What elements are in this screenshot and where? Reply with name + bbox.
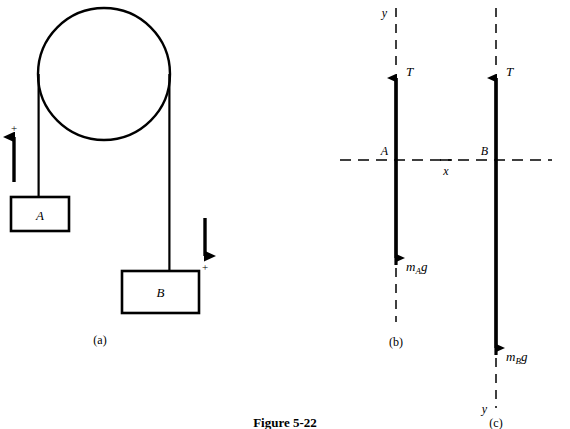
panel-c-weight-m: m xyxy=(506,349,515,364)
panel-b-weight-g: g xyxy=(421,259,428,274)
physics-figure-svg: A B + + (a) y T A x mAg (b) T B mBg y (c… xyxy=(0,0,570,429)
panel-c-weight-g: g xyxy=(521,349,528,364)
panel-c-weight-label: mBg xyxy=(506,349,528,366)
panel-c-point-label: B xyxy=(481,144,489,158)
block-b-label: B xyxy=(157,285,165,300)
panel-b-y-axis-label: y xyxy=(381,6,388,20)
plus-sign-right: + xyxy=(202,261,208,273)
pulley-circle xyxy=(38,8,170,140)
panel-c-group xyxy=(440,8,552,408)
panel-c-label: (c) xyxy=(489,416,502,429)
figure-container: A B + + (a) y T A x mAg (b) T B mBg y (c… xyxy=(0,0,570,429)
panel-a-group xyxy=(11,8,205,313)
panel-b-weight-m: m xyxy=(406,259,415,274)
panel-c-y-axis-label: y xyxy=(481,402,488,416)
panel-a-label: (a) xyxy=(93,333,106,347)
panel-c-tension-label: T xyxy=(506,64,514,79)
panel-b-point-label: A xyxy=(380,144,389,158)
panel-b-group xyxy=(340,8,452,322)
panel-b-x-axis-label: x xyxy=(442,164,449,178)
panel-b-weight-label: mAg xyxy=(406,259,428,276)
block-a-label: A xyxy=(35,208,44,223)
panel-b-label: (b) xyxy=(389,335,403,349)
figure-caption: Figure 5-22 xyxy=(253,415,317,429)
plus-sign-left: + xyxy=(11,122,17,134)
panel-b-tension-label: T xyxy=(406,64,414,79)
